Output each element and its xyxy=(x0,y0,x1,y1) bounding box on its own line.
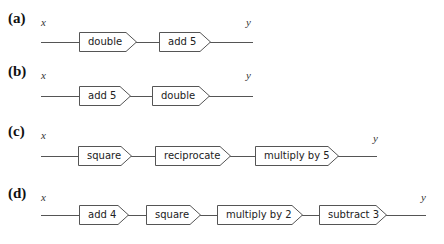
function-box: multiply by 5 xyxy=(255,146,339,166)
function-label: reciprocate xyxy=(155,146,220,166)
wire xyxy=(41,42,253,43)
function-box: square xyxy=(146,205,201,225)
input-variable: x xyxy=(41,16,46,28)
output-variable: y xyxy=(246,69,251,81)
function-box: double xyxy=(152,86,210,106)
function-label: double xyxy=(79,32,122,52)
function-box: add 5 xyxy=(159,32,211,52)
function-label: multiply by 2 xyxy=(217,205,292,225)
function-box: add 5 xyxy=(79,86,131,106)
function-box: multiply by 2 xyxy=(217,205,303,225)
function-label: double xyxy=(152,86,195,106)
input-variable: x xyxy=(41,129,46,141)
panel-label: (b) xyxy=(8,63,26,80)
function-box: reciprocate xyxy=(155,146,231,166)
input-variable: x xyxy=(41,69,46,81)
panel-label: (a) xyxy=(8,10,26,27)
function-label: square xyxy=(78,146,121,166)
function-box: add 4 xyxy=(79,205,129,225)
function-label: add 4 xyxy=(79,205,116,225)
function-label: add 5 xyxy=(79,86,116,106)
output-variable: y xyxy=(373,132,378,144)
wire xyxy=(41,96,253,97)
function-box: subtract 3 xyxy=(319,205,387,225)
function-box: double xyxy=(79,32,137,52)
function-label: multiply by 5 xyxy=(255,146,330,166)
function-label: subtract 3 xyxy=(319,205,379,225)
function-label: square xyxy=(146,205,189,225)
panel-label: (c) xyxy=(8,123,25,140)
function-label: add 5 xyxy=(159,32,196,52)
panel-label: (d) xyxy=(8,185,26,202)
output-variable: y xyxy=(246,16,251,28)
output-variable: y xyxy=(421,191,426,203)
function-box: square xyxy=(78,146,132,166)
input-variable: x xyxy=(41,191,46,203)
